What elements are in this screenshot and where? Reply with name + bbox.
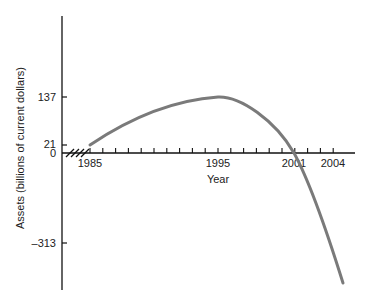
y-tick-label-0: 0 xyxy=(50,147,56,159)
x-tick-label-1995: 1995 xyxy=(206,157,230,169)
assets-curve xyxy=(90,97,343,283)
x-axis-title: Year xyxy=(207,173,230,185)
y-tick-label-137: 137 xyxy=(38,91,56,103)
x-tick-label-1985: 1985 xyxy=(78,157,102,169)
y-axis-title: Assets (billions of current dollars) xyxy=(14,67,26,229)
x-tick-label-2004: 2004 xyxy=(321,157,345,169)
assets-line-chart: 137 21 0 –313 Assets (billions of curren… xyxy=(0,0,368,297)
x-ticks xyxy=(90,148,333,153)
y-tick-label-neg313: –313 xyxy=(32,237,56,249)
y-ticks xyxy=(62,97,67,243)
